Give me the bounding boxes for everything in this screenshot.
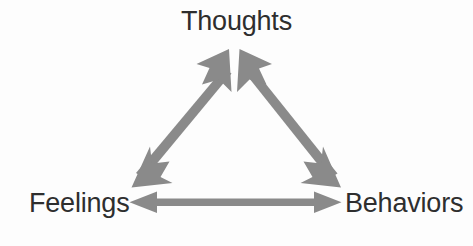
arrow-thoughts-behaviors: [237, 49, 341, 188]
node-label-feelings: Feelings: [29, 190, 129, 217]
node-label-behaviors: Behaviors: [345, 190, 463, 217]
cbt-triangle-diagram: Thoughts Feelings Behaviors: [0, 0, 473, 246]
arrow-thoughts-feelings: [132, 49, 232, 188]
arrow-feelings-behaviors: [130, 192, 342, 214]
node-label-thoughts: Thoughts: [0, 8, 473, 35]
